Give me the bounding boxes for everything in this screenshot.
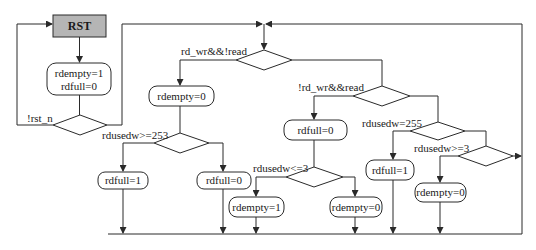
near-full-condition-label: rdusedw>=253: [102, 129, 169, 141]
near-full-no-arrow: [209, 143, 223, 171]
flowchart-canvas: RST rdempty=1 rdfull=0 !rst_n rd_wr&&!re…: [0, 0, 536, 250]
read-branch-arrow: [314, 96, 353, 119]
rst-state-box: RST: [53, 15, 106, 37]
near-empty-condition-label: rdusedw<=3: [253, 162, 309, 174]
write-rdempty0-box: rdempty=0: [149, 86, 214, 106]
ne-rdempty0-label: rdempty=0: [416, 186, 465, 198]
ne-rdempty0-box: rdempty=0: [415, 183, 466, 202]
write-rdfull1-label: rdfull=1: [105, 174, 141, 186]
init-action-box: rdempty=1 rdfull=0: [47, 63, 111, 95]
not-empty-condition-label: rdusedw>=3: [414, 142, 470, 154]
reset-condition-label: !rst_n: [27, 112, 53, 124]
write-rdfull0-label: rdfull=0: [206, 174, 243, 186]
rst-label: RST: [68, 19, 91, 33]
read-rdfull0-label: rdfull=0: [297, 124, 334, 136]
write-only-condition-label: rd_wr&&!read: [181, 45, 247, 57]
full-rdfull1-box: rdfull=1: [366, 160, 414, 180]
near-full-yes-arrow: [123, 143, 154, 171]
near-empty-no-arrow: [343, 177, 355, 196]
write-rdempty0-label: rdempty=0: [157, 90, 206, 102]
init-rdfull-label: rdfull=0: [61, 80, 98, 92]
write-rdfull0-box: rdfull=0: [197, 172, 251, 189]
read-rdempty1-box: rdempty=1: [229, 197, 284, 217]
near-empty-yes-arrow: [256, 177, 286, 196]
write-rdfull1-box: rdfull=1: [98, 172, 148, 189]
read-rdempty0-box: rdempty=0: [330, 197, 382, 217]
read-only-condition-label: !rd_wr&&read: [298, 81, 364, 93]
init-rdempty-label: rdempty=1: [55, 67, 103, 79]
full-condition-label: rdusedw=255: [362, 117, 422, 129]
reset-decision-diamond: [53, 115, 107, 135]
read-rdfull0-box: rdfull=0: [284, 120, 347, 140]
read-rdempty0-label: rdempty=0: [332, 201, 381, 213]
write-branch-arrow: [180, 60, 236, 85]
full-rdfull1-label: rdfull=1: [372, 164, 408, 176]
full-yes-arrow: [393, 131, 410, 159]
run-path-line: [107, 24, 262, 125]
not-empty-yes-arrow: [440, 156, 458, 182]
read-rdempty1-label: rdempty=1: [232, 201, 280, 213]
